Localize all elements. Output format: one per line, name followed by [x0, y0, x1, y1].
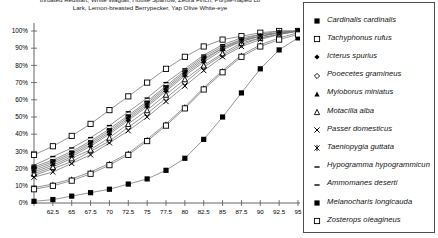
legend-item[interactable]: Taeniopygia guttata	[311, 138, 394, 154]
y-axis-tick-label: 40%	[6, 130, 28, 137]
legend-item[interactable]: Cardinalis cardinalis	[311, 11, 396, 27]
legend-item-label: Melanocharis longicauda	[327, 197, 412, 206]
dash-line-marker	[311, 177, 323, 189]
legend-item-label: Taeniopygia guttata	[327, 142, 394, 151]
open-square-marker	[311, 213, 323, 225]
legend-item-label: Passer domesticus	[327, 124, 392, 133]
legend-item-label: Pooecetes gramineus	[327, 69, 401, 78]
y-axis-tick-label: 70%	[6, 79, 28, 86]
filled-triangle-marker	[311, 86, 323, 98]
legend-item-label: Hypogramma hypogrammicun	[327, 160, 430, 169]
y-axis-tick-label: 20%	[6, 165, 28, 172]
legend-item[interactable]: Myioborus miniatus	[311, 84, 393, 100]
y-axis-tick-label: 50%	[6, 113, 28, 120]
legend-item[interactable]: Motacilla alba	[311, 102, 374, 118]
legend-item-label: Zosterops oleagineus	[327, 215, 401, 224]
legend-item[interactable]: Passer domesticus	[311, 120, 392, 136]
open-diamond-marker	[311, 68, 323, 80]
line-chart-svg	[0, 18, 300, 233]
open-square-marker	[311, 31, 323, 43]
y-axis-tick-label: 10%	[6, 182, 28, 189]
chart-page: throated Redstart, White Wagtail, House …	[0, 0, 438, 238]
y-axis-tick-label: 80%	[6, 62, 28, 69]
legend-item[interactable]: Melanocharis longicauda	[311, 193, 412, 209]
legend-item[interactable]: Hypogramma hypogrammicun	[311, 157, 430, 173]
asterisk-marker	[311, 140, 323, 152]
filled-square-marker	[311, 195, 323, 207]
figure-caption: throated Redstart, White Wagtail, House …	[0, 0, 300, 11]
y-axis-tick-label: 0%	[6, 199, 28, 206]
open-triangle-marker	[311, 104, 323, 116]
chart-axes	[34, 23, 300, 203]
legend-item[interactable]: Pooecetes gramineus	[311, 66, 401, 82]
legend-item-label: Motacilla alba	[327, 106, 374, 115]
legend-item[interactable]: Ammomanes deserti	[311, 175, 397, 191]
y-axis-tick-label: 30%	[6, 148, 28, 155]
y-axis-tick-label: 90%	[6, 44, 28, 51]
legend-item-label: Cardinalis cardinalis	[327, 15, 396, 24]
filled-diamond-marker	[311, 49, 323, 61]
chart-legend: Cardinalis cardinalisTachyphonus rufusIc…	[303, 2, 435, 233]
legend-item-label: Ammomanes deserti	[327, 178, 397, 187]
x-cross-marker	[311, 122, 323, 134]
legend-item-label: Tachyphonus rufus	[327, 33, 392, 42]
legend-item[interactable]: Icterus spurius	[311, 47, 377, 63]
chart-series	[31, 30, 300, 190]
chart-plot-area: 0%10%20%30%40%50%60%70%80%90%100% 62.565…	[0, 18, 300, 233]
legend-item-list: Cardinalis cardinalisTachyphonus rufusIc…	[304, 3, 434, 232]
legend-item[interactable]: Zosterops oleagineus	[311, 211, 401, 227]
legend-item-label: Icterus spurius	[327, 51, 377, 60]
dash-dot-line-marker	[311, 159, 323, 171]
y-axis-tick-label: 100%	[6, 27, 28, 34]
filled-square-marker	[311, 13, 323, 25]
legend-item-label: Myioborus miniatus	[327, 87, 393, 96]
legend-item[interactable]: Tachyphonus rufus	[311, 29, 392, 45]
y-axis-tick-label: 60%	[6, 96, 28, 103]
